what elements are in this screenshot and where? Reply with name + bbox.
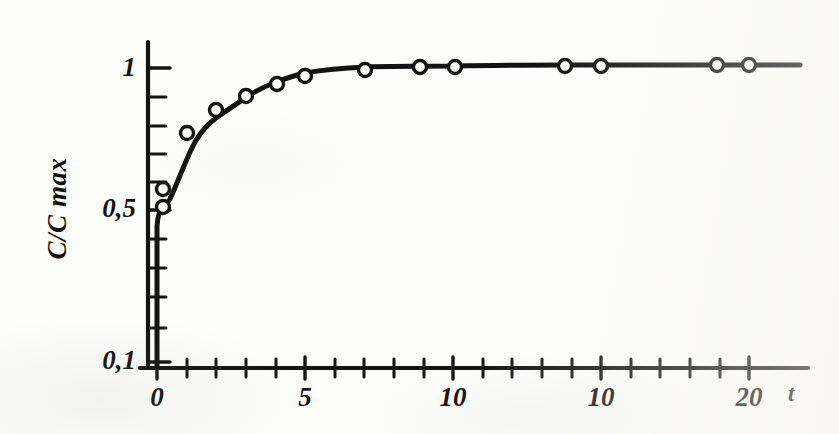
- data-point: [271, 78, 284, 91]
- x-axis-group: [140, 357, 808, 379]
- data-point: [711, 59, 724, 72]
- y-tick-label-0-1: 0,1: [74, 345, 136, 376]
- data-point: [299, 70, 312, 83]
- data-point: [743, 59, 756, 72]
- x-tick-label-10b: 10: [577, 382, 625, 413]
- data-markers: [157, 59, 756, 214]
- data-point: [210, 104, 223, 117]
- data-point: [157, 183, 170, 196]
- data-point: [449, 61, 462, 74]
- data-point: [240, 90, 253, 103]
- x-axis-title: t: [788, 381, 794, 407]
- figure-scanned-chart: 1 0,5 0,1 C/C max 0 5 10 10 20 t: [0, 0, 839, 434]
- data-point: [359, 64, 372, 77]
- data-point: [595, 60, 608, 73]
- x-tick-label-10a: 10: [429, 382, 477, 413]
- x-tick-label-5: 5: [285, 382, 325, 413]
- data-series-c-over-cmax: [157, 59, 801, 367]
- y-tick-label-0-5: 0,5: [74, 193, 136, 224]
- data-point: [181, 127, 194, 140]
- data-point: [414, 61, 427, 74]
- data-point: [559, 60, 572, 73]
- x-tick-label-0: 0: [137, 382, 177, 413]
- y-tick-label-1: 1: [92, 52, 136, 83]
- data-point: [157, 201, 170, 214]
- x-tick-label-20: 20: [725, 382, 773, 413]
- x-axis-ticks: [157, 357, 749, 379]
- curve-path: [157, 65, 800, 366]
- y-axis-title: C/C max: [42, 134, 73, 284]
